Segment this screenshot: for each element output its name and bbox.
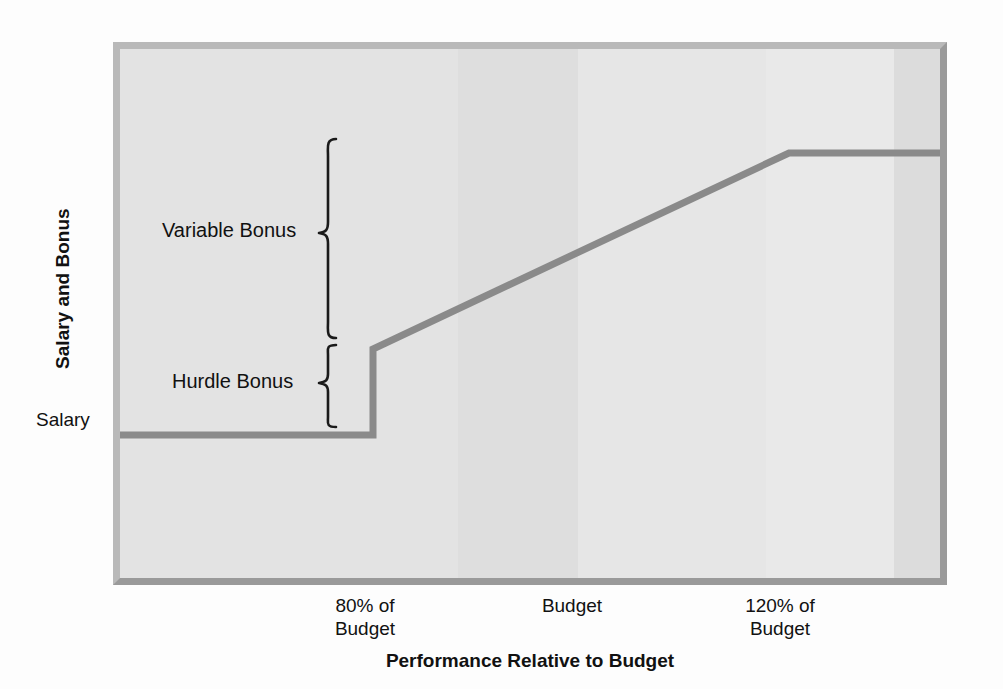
compensation-plan-figure: Salary and Bonus Salary Variable Bonus H… [0,0,1003,689]
plot-frame [113,42,947,585]
y-tick-label-salary: Salary [36,409,90,430]
x-axis-title: Performance Relative to Budget [273,650,787,671]
x-tick-label-80-percent: 80% ofBudget [260,595,470,641]
x-tick-label-120-percent: 120% ofBudget [675,595,885,641]
y-axis-title: Salary and Bonus [52,174,73,404]
compensation-series-line [120,153,940,435]
x-tick-label-budget: Budget [467,595,677,618]
annotation-variable-bonus: Variable Bonus [162,219,296,241]
series-line-chart [120,49,940,578]
annotation-hurdle-bonus: Hurdle Bonus [172,370,293,392]
plot-area [120,49,940,578]
